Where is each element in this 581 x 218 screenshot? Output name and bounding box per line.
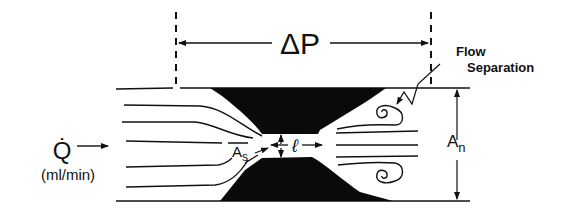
flow-separation-label-line2: Separation: [467, 60, 534, 75]
flow-separation-vortex-top: [377, 106, 395, 118]
flow-separation-label-line1: Flow: [456, 44, 486, 59]
downstream-streamlines: [336, 108, 418, 181]
flow-separation-leader-line: [397, 64, 440, 104]
flow-separation-vortex-bottom: [377, 170, 395, 182]
flow-rate-symbol: Q̇: [53, 137, 72, 164]
stenosis-flow-diagram: ΔP Flow Separation An ℓ: [0, 0, 581, 218]
flow-rate-units: (ml/min): [41, 166, 95, 183]
normal-area-label: An: [447, 132, 466, 155]
pressure-drop-label: ΔP: [280, 27, 320, 60]
stenosis-area-pointer: [255, 148, 268, 153]
length-label: ℓ: [291, 136, 299, 156]
stenosis-top-plaque: [210, 88, 386, 134]
stenosis-area-label: As: [232, 143, 248, 164]
